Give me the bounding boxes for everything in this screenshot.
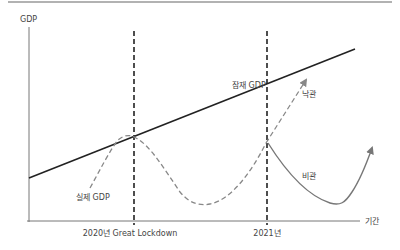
pessimistic-curve [268, 143, 372, 204]
x-axis-label: 기간 [365, 216, 380, 226]
gdp-scenario-diagram: GDP 기간 잠재 GDP 낙관 비관 실제 GDP 2020년 Great L… [0, 0, 400, 250]
potential-gdp-line [29, 49, 355, 178]
actual-gdp-label: 실제 GDP [76, 192, 110, 202]
optimistic-label: 낙관 [302, 89, 317, 99]
y-axis-label: GDP [20, 15, 37, 24]
actual-gdp-curve [90, 136, 266, 205]
potential-gdp-label: 잠재 GDP [232, 80, 266, 90]
event-label-2020: 2020년 Great Lockdown [83, 228, 178, 238]
event-label-2021: 2021년 [253, 228, 280, 238]
pessimistic-label: 비관 [302, 171, 317, 181]
optimistic-arrow [266, 80, 306, 143]
